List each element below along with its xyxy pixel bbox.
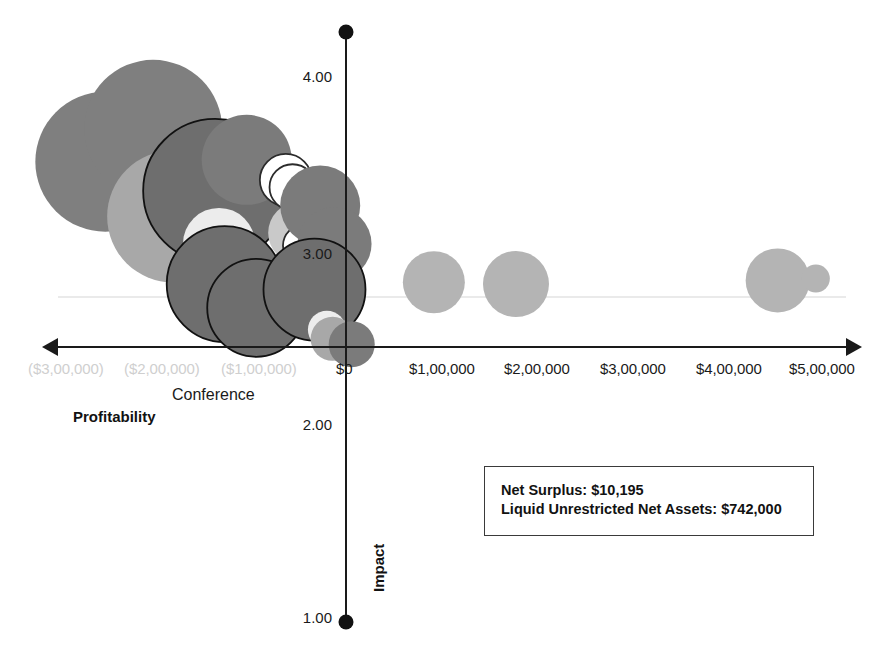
x-tick-label-neg-200000: ($2,00,000): [124, 360, 200, 377]
net-surplus-line: Net Surplus: $10,195: [501, 481, 797, 500]
y-tick-label-3: 3.00: [296, 245, 332, 262]
bubble-point: [483, 251, 549, 317]
x-tick-label-neg-300000: ($3,00,000): [28, 360, 104, 377]
bubble-chart: ($3,00,000) ($2,00,000) ($1,00,000) $0 $…: [0, 0, 882, 656]
x-tick-label-300000: $3,00,000: [600, 360, 666, 377]
x-tick-label-0: $0: [336, 360, 353, 377]
x-tick-label-100000: $1,00,000: [409, 360, 475, 377]
x-tick-label-neg-100000: ($1,00,000): [221, 360, 297, 377]
x-tick-label-400000: $4,00,000: [696, 360, 762, 377]
liquid-net-assets-line: Liquid Unrestricted Net Assets: $742,000: [501, 500, 797, 519]
y-axis-top-cap: [339, 25, 354, 40]
y-axis-bottom-cap: [339, 615, 354, 630]
bubble-point: [746, 248, 810, 312]
summary-info-box: Net Surplus: $10,195 Liquid Unrestricted…: [484, 466, 814, 536]
x-axis-title: Profitability: [73, 408, 156, 425]
y-tick-label-2: 2.00: [296, 416, 332, 433]
chart-canvas: [0, 0, 882, 656]
bubble-point: [403, 251, 465, 313]
point-label-conference: Conference: [172, 386, 255, 404]
x-tick-label-500000: $5,00,000: [789, 360, 855, 377]
bubble-series: [35, 60, 830, 368]
y-axis-title: Impact: [370, 544, 387, 592]
bubble-point: [802, 265, 830, 293]
y-tick-label-1: 1.00: [296, 609, 332, 626]
y-tick-label-4: 4.00: [296, 68, 332, 85]
x-tick-label-200000: $2,00,000: [504, 360, 570, 377]
